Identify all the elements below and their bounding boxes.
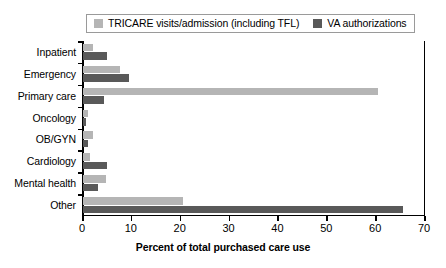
y-axis-tick: [78, 107, 82, 109]
bar-va: [83, 118, 86, 126]
x-axis-tick-label: 40: [271, 222, 283, 235]
x-axis-tick: [326, 216, 328, 221]
category-label: Inpatient: [37, 46, 76, 58]
x-axis-tick: [277, 216, 279, 221]
x-axis-tick: [82, 216, 84, 221]
bar-va: [83, 140, 88, 148]
legend-swatch-va: [313, 19, 322, 28]
bar-tricare: [83, 44, 93, 52]
bar-tricare: [83, 197, 183, 205]
x-axis-tick-label: 50: [320, 222, 332, 235]
legend-label-va: VA authorizations: [327, 18, 406, 29]
bar-row: Inpatient: [82, 41, 425, 63]
bar-group: [83, 175, 425, 191]
category-label: Cardiology: [27, 155, 76, 167]
bar-row: Primary care: [82, 85, 425, 107]
bar-rows: InpatientEmergencyPrimary careOncologyOB…: [82, 41, 425, 216]
bar-tricare: [83, 66, 120, 74]
x-axis-tick: [375, 216, 377, 221]
bar-group: [83, 153, 425, 169]
bar-row: Cardiology: [82, 150, 425, 172]
bar-va: [83, 184, 98, 192]
x-axis-tick-label: 10: [125, 222, 137, 235]
legend-item-tricare: TRICARE visits/admission (including TFL): [94, 18, 299, 29]
category-label: Mental health: [14, 177, 76, 189]
bar-group: [83, 88, 425, 104]
bar-group: [83, 197, 425, 213]
bar-row: Oncology: [82, 107, 425, 129]
bar-tricare: [83, 131, 93, 139]
plot-area: InpatientEmergencyPrimary careOncologyOB…: [82, 41, 425, 216]
bar-row: Mental health: [82, 172, 425, 194]
chart-figure: TRICARE visits/admission (including TFL)…: [0, 0, 446, 268]
x-axis-tick: [180, 216, 182, 221]
legend-swatch-tricare: [94, 19, 103, 28]
y-axis-tick: [78, 150, 82, 152]
y-axis-tick: [78, 63, 82, 65]
bar-tricare: [83, 110, 88, 118]
x-axis-tick: [131, 216, 133, 221]
bar-group: [83, 131, 425, 147]
y-axis-tick: [78, 85, 82, 87]
x-axis-tick-label: 30: [222, 222, 234, 235]
chart-legend: TRICARE visits/admission (including TFL)…: [86, 14, 415, 33]
bar-row: Emergency: [82, 63, 425, 85]
x-axis-tick: [229, 216, 231, 221]
x-axis-title: Percent of total purchased care use: [0, 241, 446, 253]
y-axis-tick: [78, 41, 82, 43]
x-axis-tick: [424, 216, 426, 221]
bar-group: [83, 66, 425, 82]
bar-tricare: [83, 88, 378, 96]
bar-va: [83, 96, 104, 104]
bar-va: [83, 74, 129, 82]
y-axis-tick: [78, 172, 82, 174]
category-label: Oncology: [32, 112, 76, 124]
bar-va: [83, 52, 107, 60]
x-axis-tick-label: 70: [418, 222, 430, 235]
category-label: Emergency: [24, 68, 76, 80]
bar-tricare: [83, 153, 90, 161]
bar-row: OB/GYN: [82, 129, 425, 151]
x-axis-tick-label: 60: [369, 222, 381, 235]
bar-row: Other: [82, 194, 425, 216]
y-axis-tick: [78, 194, 82, 196]
category-label: Other: [50, 199, 76, 211]
y-axis-tick: [78, 129, 82, 131]
category-label: OB/GYN: [36, 133, 76, 145]
bar-group: [83, 110, 425, 126]
x-axis-tick-label: 20: [174, 222, 186, 235]
bar-va: [83, 206, 403, 214]
legend-label-tricare: TRICARE visits/admission (including TFL): [108, 18, 299, 29]
category-label: Primary care: [18, 90, 76, 102]
x-axis-tick-label: 0: [79, 222, 85, 235]
bar-group: [83, 44, 425, 60]
bar-tricare: [83, 175, 106, 183]
legend-item-va: VA authorizations: [313, 18, 406, 29]
bar-va: [83, 162, 107, 170]
